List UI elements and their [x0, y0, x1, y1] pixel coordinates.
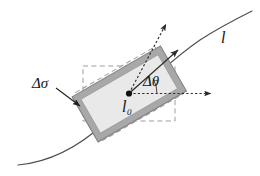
diagram-canvas: Δσ Δθ l0 l: [0, 0, 260, 176]
center-dot-l0: [126, 90, 132, 96]
figure-container: Δσ Δθ l0 l: [0, 0, 260, 176]
label-delta-sigma: Δσ: [31, 75, 49, 91]
label-l0-subscript: 0: [127, 107, 132, 117]
label-delta-theta: Δθ: [142, 73, 160, 89]
label-line-l: l: [221, 29, 226, 46]
